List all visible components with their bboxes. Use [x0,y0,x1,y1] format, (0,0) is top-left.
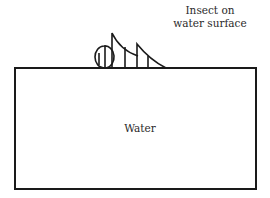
insect-label: Insect on water surface [160,4,260,30]
insect-label-line2: water surface [160,17,260,30]
water-label: Water [110,122,170,135]
insect-icon [95,33,166,68]
insect-label-line1: Insect on [160,4,260,17]
